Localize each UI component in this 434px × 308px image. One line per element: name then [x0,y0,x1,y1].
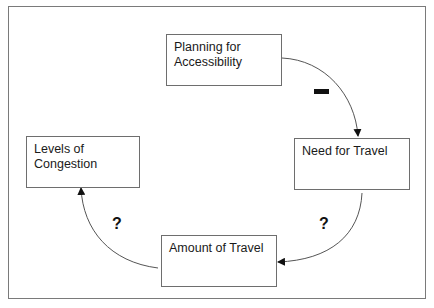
node-amount-of-travel: Amount of Travel [161,235,277,287]
node-label-line: Planning for [174,40,281,55]
polarity-label-need-amount: ? [319,216,329,232]
node-label-line: Accessibility [174,55,281,70]
node-label-line: Need for Travel [302,144,409,159]
polarity-label-amount-congestion: ? [112,216,122,232]
node-label-line: Congestion [34,157,139,172]
polarity-minus-icon [314,89,329,94]
node-label-line: Amount of Travel [169,241,276,256]
node-levels-of-congestion: Levels of Congestion [26,136,140,188]
node-label-line: Levels of [34,142,139,157]
node-planning-for-accessibility: Planning for Accessibility [166,34,282,86]
node-need-for-travel: Need for Travel [294,138,410,190]
